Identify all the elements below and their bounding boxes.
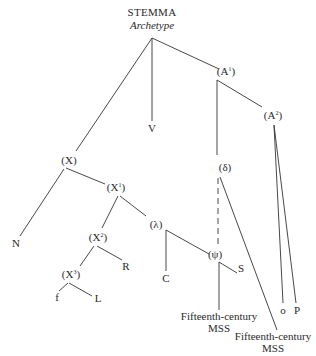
node-x-close: ) xyxy=(73,154,77,166)
stemma-edges xyxy=(0,0,316,356)
edge-delta-mss2 xyxy=(220,177,277,330)
node-x1: (X1) xyxy=(107,181,125,193)
edge-a2-o xyxy=(274,125,283,303)
node-r: R xyxy=(122,260,129,272)
node-delta: (δ) xyxy=(219,161,232,173)
node-lambda: (λ) xyxy=(150,218,163,230)
node-a1: (A1) xyxy=(217,65,235,77)
edge-psi-s xyxy=(219,262,237,273)
edge-a2-p xyxy=(274,125,296,303)
node-psi: (ψ) xyxy=(208,248,222,260)
node-a2-base: (A xyxy=(264,109,276,121)
node-f: f xyxy=(55,291,59,303)
mss-2-line2: MSS xyxy=(235,342,311,354)
edge-lambda-psi xyxy=(166,230,209,254)
node-a2: (A2) xyxy=(264,109,282,121)
edge-a1-a2 xyxy=(217,80,262,107)
node-s: S xyxy=(238,262,244,274)
node-x-base: (X xyxy=(61,154,73,166)
node-a1-base: (A xyxy=(217,65,229,77)
edge-x1-x2 xyxy=(102,196,118,228)
mss-2-line1: Fifteenth-century xyxy=(235,330,311,342)
edge-archetype-a1 xyxy=(152,38,219,69)
node-l: L xyxy=(95,292,102,304)
node-c: C xyxy=(162,272,169,284)
edge-x3-l xyxy=(69,283,92,296)
node-a1-close: ) xyxy=(231,65,235,77)
edge-x-x1 xyxy=(66,168,105,184)
node-o: o xyxy=(280,304,286,316)
edge-x-n xyxy=(20,169,64,236)
node-n: N xyxy=(12,237,20,249)
edge-x1-lambda xyxy=(120,196,146,216)
fifteenth-century-mss-group-2: Fifteenth-century MSS xyxy=(235,330,311,354)
node-x: (X) xyxy=(61,154,76,166)
archetype-label: Archetype xyxy=(130,19,174,31)
node-a2-close: ) xyxy=(278,109,282,121)
node-p: P xyxy=(294,304,300,316)
node-x1-base: (X xyxy=(107,181,119,193)
node-x2: (X2) xyxy=(89,231,107,243)
node-x2-base: (X xyxy=(89,231,101,243)
stemma-title: STEMMA xyxy=(128,6,177,18)
edge-x2-r xyxy=(97,246,122,260)
node-x3: (X3) xyxy=(62,268,80,280)
edge-x3-f xyxy=(59,283,68,291)
node-x3-base: (X xyxy=(62,268,74,280)
edge-x2-x3 xyxy=(80,246,94,266)
node-v: V xyxy=(148,122,156,134)
node-x1-close: ) xyxy=(121,181,125,193)
stemma-diagram: STEMMA Archetype (A1) (A2) V (X) (δ) (X1… xyxy=(0,0,316,356)
edge-archetype-x xyxy=(76,38,152,151)
mss-1-line1: Fifteenth-century xyxy=(181,310,257,322)
node-x2-close: ) xyxy=(103,231,107,243)
node-x3-close: ) xyxy=(76,268,80,280)
